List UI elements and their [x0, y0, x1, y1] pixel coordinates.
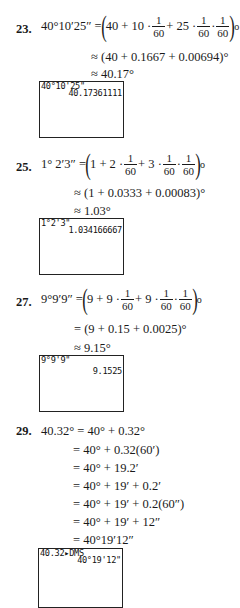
fraction: 160 — [163, 152, 176, 177]
step: = 40° + 0.32(60′) — [73, 443, 159, 458]
calculator-input: 1°2'3" — [41, 218, 70, 228]
dot: · — [211, 19, 215, 34]
dot: · — [174, 292, 178, 307]
fraction: 160 — [182, 152, 195, 177]
fraction: 160 — [160, 287, 173, 312]
problem-number: 25. — [16, 160, 32, 175]
lhs: 9°9′9″ = — [41, 292, 83, 307]
term: 9 + 9 · — [87, 292, 120, 307]
fraction: 160 — [216, 14, 229, 39]
term: + 3 · — [138, 157, 162, 172]
right-paren: ) — [192, 286, 198, 312]
fraction: 160 — [124, 152, 137, 177]
step: = 40° + 19′ + 12″ — [73, 515, 160, 530]
left-paren: ( — [101, 13, 107, 39]
problem-number: 29. — [16, 424, 32, 439]
lhs: 40°10′25″ = — [41, 19, 102, 34]
dot: · — [177, 157, 181, 172]
left-paren: ( — [85, 151, 91, 177]
fraction: 160 — [197, 14, 210, 39]
calculator-output: 40°19'12" — [77, 555, 121, 565]
calculator-output: 40.17361111 — [68, 88, 122, 98]
step: ≈ (1 + 0.0333 + 0.00083)° — [74, 186, 205, 201]
term: 40 + 10 · — [106, 19, 152, 34]
calculator-output: 1.034166667 — [68, 225, 122, 235]
term: 1 + 2 · — [90, 157, 123, 172]
calculator-output: 9.1525 — [93, 366, 122, 376]
term: + 9 · — [135, 292, 159, 307]
problem-equation: 9°9′9″ = ( 9 + 9 · 160 + 9 · 160 · 160 )… — [41, 284, 202, 314]
calculator-screen: 9°9'9" 9.1525 — [39, 355, 124, 412]
step: = 40° + 19′ + 0.2′ — [73, 479, 161, 494]
step: ≈ 1.03° — [74, 204, 111, 219]
problem-equation: 40°10′25″ = ( 40 + 10 · 160 + 25 · 160 ·… — [41, 11, 239, 41]
step: = 40°19′12″ — [73, 533, 134, 548]
problem-number: 27. — [16, 295, 32, 310]
fraction: 160 — [179, 287, 192, 312]
step: = 40° + 19.2′ — [73, 461, 139, 476]
calculator-screen: 1°2'3" 1.034166667 — [39, 218, 124, 275]
term: + 25 · — [166, 19, 196, 34]
problem-number: 23. — [16, 22, 32, 37]
problem-equation: 1° 2′3″ = ( 1 + 2 · 160 + 3 · 160 · 160 … — [41, 149, 205, 179]
step: ≈ 9.15° — [74, 341, 111, 356]
step: ≈ 40.17° — [91, 67, 134, 82]
lhs: 1° 2′3″ = — [41, 157, 86, 172]
right-paren: ) — [195, 151, 201, 177]
problem-equation: 40.32° = 40° + 0.32° — [41, 424, 145, 439]
right-paren: ) — [230, 13, 236, 39]
step: = 40° + 19′ + 0.2(60″) — [73, 497, 184, 512]
degree-mark: o — [234, 21, 239, 32]
step: = (9 + 0.15 + 0.0025)° — [74, 322, 187, 337]
calculator-screen: 40°10'25" 40.17361111 — [39, 81, 124, 138]
calculator-screen: 40.32▸DMS 40°19'12" — [38, 548, 123, 608]
fraction: 160 — [152, 14, 165, 39]
left-paren: ( — [82, 286, 88, 312]
step: ≈ (40 + 0.1667 + 0.00694)° — [91, 50, 228, 65]
calculator-input: 9°9'9" — [41, 355, 70, 365]
fraction: 160 — [121, 287, 134, 312]
